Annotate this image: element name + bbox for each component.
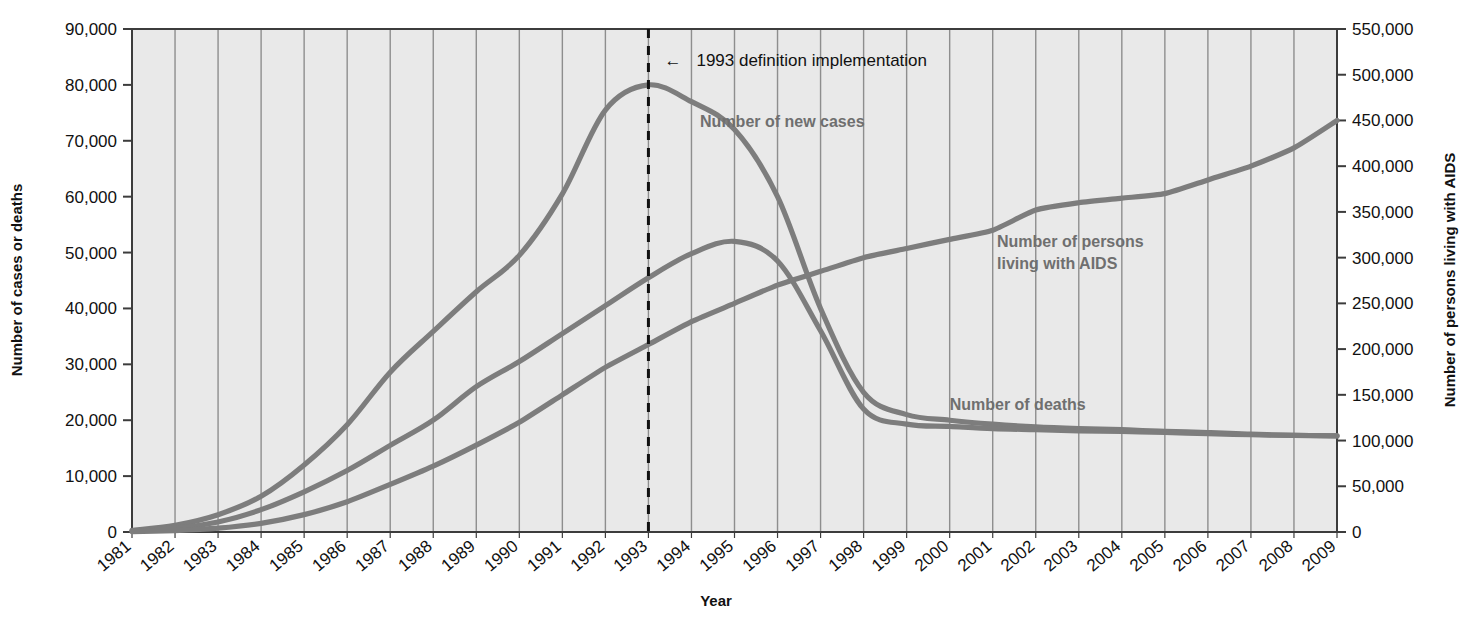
chart-container: 010,00020,00030,00040,00050,00060,00070,… <box>0 0 1476 632</box>
left-tick-label-0: 0 <box>108 523 117 542</box>
left-tick-label-20000: 20,000 <box>65 411 117 430</box>
series-label-2-line0: Number of persons <box>997 233 1144 250</box>
series-label-2-line1: living with AIDS <box>997 255 1118 272</box>
right-tick-label-500000: 500,000 <box>1352 66 1413 85</box>
left-tick-label-50000: 50,000 <box>65 244 117 263</box>
y-axis-title: Number of cases or deaths <box>8 184 25 377</box>
left-tick-label-90000: 90,000 <box>65 20 117 39</box>
left-tick-label-30000: 30,000 <box>65 355 117 374</box>
right-tick-label-100000: 100,000 <box>1352 432 1413 451</box>
left-tick-label-80000: 80,000 <box>65 76 117 95</box>
right-tick-label-400000: 400,000 <box>1352 157 1413 176</box>
right-tick-label-250000: 250,000 <box>1352 294 1413 313</box>
right-tick-label-50000: 50,000 <box>1352 477 1404 496</box>
right-tick-label-450000: 450,000 <box>1352 111 1413 130</box>
left-tick-label-10000: 10,000 <box>65 467 117 486</box>
x-axis-title: Year <box>700 592 732 609</box>
annotation-arrow-0: ← <box>664 51 681 70</box>
right-tick-label-0: 0 <box>1352 523 1361 542</box>
left-tick-label-60000: 60,000 <box>65 188 117 207</box>
right-tick-label-150000: 150,000 <box>1352 386 1413 405</box>
right-tick-label-350000: 350,000 <box>1352 203 1413 222</box>
series-label-0: Number of new cases <box>700 113 865 130</box>
left-tick-label-40000: 40,000 <box>65 299 117 318</box>
right-tick-label-200000: 200,000 <box>1352 340 1413 359</box>
annotation-text-0: 1993 definition implementation <box>696 51 927 70</box>
left-tick-label-70000: 70,000 <box>65 132 117 151</box>
series-label-1: Number of deaths <box>950 396 1086 413</box>
right-tick-label-550000: 550,000 <box>1352 20 1413 39</box>
aids-trends-line-chart: 010,00020,00030,00040,00050,00060,00070,… <box>0 0 1476 632</box>
y2-axis-title: Number of persons living with AIDS <box>1441 153 1458 407</box>
right-tick-label-300000: 300,000 <box>1352 249 1413 268</box>
